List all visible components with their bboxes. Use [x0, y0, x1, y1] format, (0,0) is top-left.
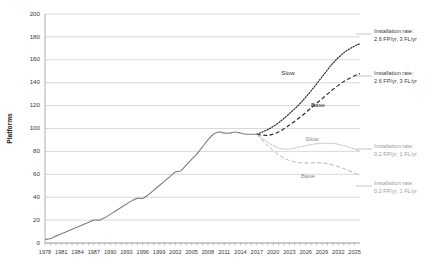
x-tick-label: 1999: [153, 249, 165, 255]
x-tick-label: 1993: [120, 249, 132, 255]
anno-base-upper-line2: 2.6 FP/yr, 3 FL/yr: [374, 78, 417, 84]
y-tick-label: 200: [30, 10, 41, 17]
anno-slow-upper-line1: Installation rate:: [374, 28, 414, 34]
x-tick-label: 2032: [332, 249, 344, 255]
x-tick-label: 2035: [348, 249, 360, 255]
x-tick-label: 2029: [316, 249, 328, 255]
x-tick-label: 2026: [299, 249, 311, 255]
series-slow-upper: [257, 44, 360, 134]
y-tick-label: 80: [33, 147, 40, 154]
y-tick-label: 160: [30, 55, 41, 62]
platforms-forecast-chart: 200180160140120100806040200 197819811984…: [0, 0, 432, 274]
y-tick-label: 40: [33, 193, 40, 200]
y-tick-label: 140: [30, 78, 41, 85]
y-tick-label: 60: [33, 170, 40, 177]
x-tick-label: 2002: [169, 249, 181, 255]
anno-slow-upper-line2: 2.6 FP/yr, 3 FL/yr: [374, 36, 417, 42]
x-tick-label: 1984: [71, 249, 83, 255]
y-tick-label: 180: [30, 33, 41, 40]
base-upper-label: Base: [311, 101, 326, 108]
y-tick-label: 0: [37, 239, 41, 246]
x-tick-label: 2008: [202, 249, 214, 255]
anno-base-lower-line1: Installation rate:: [374, 180, 414, 186]
x-axis-tick-labels: 1978198119841987199019931996199920022005…: [39, 249, 361, 255]
x-tick-label: 1987: [88, 249, 100, 255]
y-axis-title: Platforms: [6, 113, 13, 144]
anno-base-lower-line2: 0.2 FP/yr, 1 FL/yr: [374, 188, 417, 194]
chart-figure: 200180160140120100806040200 197819811984…: [0, 0, 432, 274]
x-tick-label: 1978: [39, 249, 51, 255]
x-tick-label: 2014: [234, 249, 246, 255]
base-lower-label: Base: [301, 172, 316, 179]
x-tick-label: 2017: [251, 249, 263, 255]
y-gridlines: [45, 14, 360, 243]
series-historical: [45, 132, 257, 240]
anno-slow-lower-line2: 0.2 FP/yr, 1 FL/yr: [374, 151, 417, 157]
slow-upper-label: Slow: [281, 69, 295, 76]
x-tick-label: 2011: [218, 249, 230, 255]
x-tick-label: 1990: [104, 249, 116, 255]
y-tick-label: 20: [33, 216, 40, 223]
slow-lower-label: Slow: [305, 135, 319, 142]
anno-base-upper-line1: Installation rate:: [374, 70, 414, 76]
x-tick-label: 2023: [283, 249, 295, 255]
x-tick-label: 1996: [137, 249, 149, 255]
anno-slow-lower-line1: Installation rate:: [374, 143, 414, 149]
x-tick-label: 2020: [267, 249, 279, 255]
x-tick-label: 1981: [55, 249, 67, 255]
x-tick-label: 2005: [185, 249, 197, 255]
y-axis-tick-labels: 200180160140120100806040200: [30, 10, 41, 246]
figure-caption: [0, 265, 432, 274]
y-tick-label: 120: [30, 101, 41, 108]
y-tick-label: 100: [30, 124, 41, 131]
